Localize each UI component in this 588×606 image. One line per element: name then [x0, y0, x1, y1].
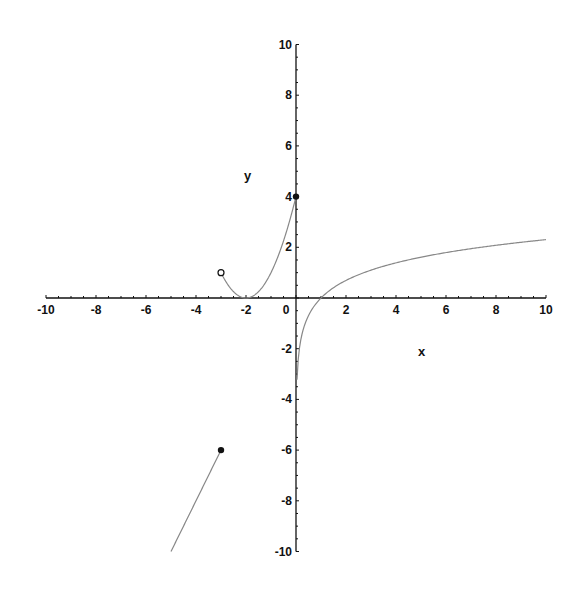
- open-endpoint-marker: [218, 270, 224, 276]
- y-tick-label: -2: [281, 342, 292, 356]
- y-tick-label: 6: [285, 139, 292, 153]
- x-tick-label: -2: [241, 303, 252, 317]
- x-tick-label: -10: [37, 303, 55, 317]
- y-tick-label: 10: [279, 38, 293, 52]
- axes: -10-8-6-4-20246810-10-8-6-4-2246810: [37, 38, 553, 559]
- x-tick-label: 10: [539, 303, 553, 317]
- x-axis-label: x: [418, 344, 426, 359]
- curve-1: [171, 450, 221, 551]
- closed-endpoint-marker: [218, 447, 224, 453]
- y-tick-label: 2: [285, 240, 292, 254]
- y-tick-label: -4: [281, 392, 292, 406]
- x-tick-label: -4: [191, 303, 202, 317]
- closed-endpoint-marker: [293, 193, 299, 199]
- y-axis-label: y: [244, 168, 252, 183]
- x-tick-label: -8: [91, 303, 102, 317]
- x-tick-label: 8: [493, 303, 500, 317]
- x-tick-label: -6: [141, 303, 152, 317]
- curves: [171, 197, 546, 552]
- endpoint-markers: [218, 193, 299, 453]
- x-tick-label: 6: [443, 303, 450, 317]
- y-tick-label: -6: [281, 443, 292, 457]
- y-tick-label: -8: [281, 494, 292, 508]
- y-tick-label: 4: [285, 190, 292, 204]
- x-tick-label: 4: [393, 303, 400, 317]
- y-tick-label: 8: [285, 88, 292, 102]
- piecewise-function-plot: -10-8-6-4-20246810-10-8-6-4-2246810 x y: [0, 0, 588, 606]
- x-tick-label: 0: [283, 303, 290, 317]
- x-tick-label: 2: [343, 303, 350, 317]
- y-tick-label: -10: [275, 545, 293, 559]
